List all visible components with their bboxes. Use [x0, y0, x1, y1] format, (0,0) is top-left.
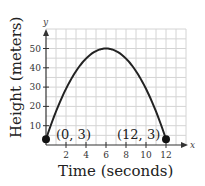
point-label-start: (0, 3) [56, 127, 91, 142]
svg-text:40: 40 [30, 63, 42, 73]
y-axis-label: Height (meters) [7, 17, 25, 138]
svg-text:10: 10 [30, 121, 42, 131]
svg-text:8: 8 [123, 150, 129, 160]
svg-text:12: 12 [160, 150, 171, 160]
svg-text:20: 20 [30, 101, 42, 111]
svg-text:6: 6 [103, 150, 109, 160]
parabola-chart: 246810121020304050 y x (0, 3) (12, 3) Ti… [0, 0, 205, 186]
tick-labels: 246810121020304050 [30, 44, 172, 161]
svg-text:30: 30 [30, 82, 42, 92]
svg-text:10: 10 [140, 150, 152, 160]
point-label-end: (12, 3) [117, 127, 160, 142]
svg-text:4: 4 [83, 150, 89, 160]
y-axis-variable: y [42, 17, 49, 27]
point-end [162, 135, 170, 143]
svg-text:2: 2 [63, 150, 69, 160]
point-start [42, 135, 50, 143]
svg-text:50: 50 [30, 44, 42, 54]
x-axis-variable: x [190, 140, 195, 150]
x-axis-label: Time (seconds) [58, 162, 173, 180]
